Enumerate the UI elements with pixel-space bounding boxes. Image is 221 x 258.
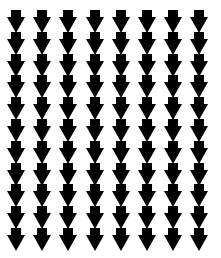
arrow-pattern-grid [0, 0, 221, 258]
down-arrow-icon [138, 32, 156, 55]
down-arrow-icon [33, 206, 51, 229]
down-arrow-icon [86, 119, 104, 142]
down-arrow-icon [164, 10, 182, 33]
down-arrow-icon [59, 32, 77, 55]
down-arrow-icon [59, 54, 77, 77]
down-arrow-icon [138, 163, 156, 186]
down-arrow-icon [59, 206, 77, 229]
down-arrow-icon [86, 54, 104, 77]
down-arrow-icon [59, 97, 77, 120]
down-arrow-icon [138, 54, 156, 77]
down-arrow-icon [59, 10, 77, 33]
down-arrow-icon [190, 97, 208, 120]
down-arrow-icon [138, 184, 156, 207]
down-arrow-icon [164, 32, 182, 55]
down-arrow-icon [7, 54, 25, 77]
down-arrow-icon [112, 119, 130, 142]
down-arrow-icon [59, 119, 77, 142]
down-arrow-icon [190, 228, 208, 251]
down-arrow-icon [164, 75, 182, 98]
down-arrow-icon [33, 97, 51, 120]
down-arrow-icon [86, 97, 104, 120]
down-arrow-icon [7, 141, 25, 164]
down-arrow-icon [59, 184, 77, 207]
down-arrow-icon [164, 97, 182, 120]
down-arrow-icon [7, 10, 25, 33]
down-arrow-icon [190, 163, 208, 186]
down-arrow-icon [86, 228, 104, 251]
down-arrow-icon [164, 54, 182, 77]
down-arrow-icon [164, 206, 182, 229]
down-arrow-icon [164, 163, 182, 186]
down-arrow-icon [190, 184, 208, 207]
down-arrow-icon [86, 184, 104, 207]
down-arrow-icon [112, 10, 130, 33]
down-arrow-icon [59, 228, 77, 251]
down-arrow-icon [33, 163, 51, 186]
down-arrow-icon [7, 184, 25, 207]
down-arrow-icon [190, 75, 208, 98]
down-arrow-icon [33, 54, 51, 77]
down-arrow-icon [7, 32, 25, 55]
down-arrow-icon [59, 75, 77, 98]
down-arrow-icon [33, 184, 51, 207]
down-arrow-icon [190, 54, 208, 77]
down-arrow-icon [138, 141, 156, 164]
down-arrow-icon [7, 228, 25, 251]
down-arrow-icon [164, 141, 182, 164]
down-arrow-icon [7, 163, 25, 186]
down-arrow-icon [86, 163, 104, 186]
down-arrow-icon [112, 184, 130, 207]
down-arrow-icon [190, 32, 208, 55]
down-arrow-icon [112, 32, 130, 55]
down-arrow-icon [33, 141, 51, 164]
down-arrow-icon [112, 75, 130, 98]
down-arrow-icon [7, 75, 25, 98]
down-arrow-icon [138, 75, 156, 98]
down-arrow-icon [190, 10, 208, 33]
down-arrow-icon [7, 97, 25, 120]
down-arrow-icon [86, 10, 104, 33]
down-arrow-icon [112, 228, 130, 251]
down-arrow-icon [33, 228, 51, 251]
down-arrow-icon [33, 75, 51, 98]
down-arrow-icon [164, 228, 182, 251]
down-arrow-icon [138, 119, 156, 142]
down-arrow-icon [112, 163, 130, 186]
down-arrow-icon [59, 163, 77, 186]
down-arrow-icon [190, 141, 208, 164]
down-arrow-icon [164, 184, 182, 207]
down-arrow-icon [112, 97, 130, 120]
down-arrow-icon [112, 206, 130, 229]
down-arrow-icon [138, 10, 156, 33]
down-arrow-icon [7, 206, 25, 229]
down-arrow-icon [112, 141, 130, 164]
down-arrow-icon [7, 119, 25, 142]
down-arrow-icon [190, 119, 208, 142]
down-arrow-icon [33, 119, 51, 142]
down-arrow-icon [190, 206, 208, 229]
down-arrow-icon [86, 206, 104, 229]
down-arrow-icon [138, 228, 156, 251]
down-arrow-icon [33, 10, 51, 33]
down-arrow-icon [138, 206, 156, 229]
down-arrow-icon [86, 32, 104, 55]
down-arrow-icon [59, 141, 77, 164]
down-arrow-icon [112, 54, 130, 77]
down-arrow-icon [86, 75, 104, 98]
down-arrow-icon [164, 119, 182, 142]
down-arrow-icon [33, 32, 51, 55]
down-arrow-icon [138, 97, 156, 120]
down-arrow-icon [86, 141, 104, 164]
